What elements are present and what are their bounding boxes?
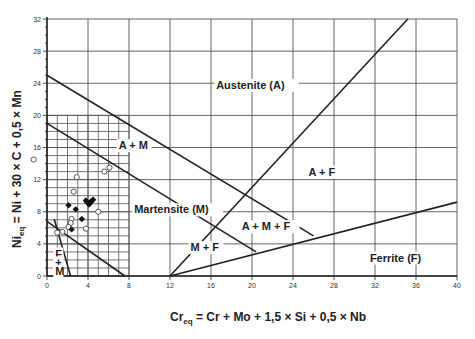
region-label: Austenite (A) — [216, 79, 285, 91]
open-circle-point — [107, 165, 112, 170]
region-label: M — [55, 265, 64, 277]
y-tick-label: 0 — [37, 273, 41, 280]
y-tick-label: 24 — [33, 80, 41, 87]
open-circle-point — [71, 189, 76, 194]
axes — [43, 17, 457, 280]
open-circle-point — [60, 229, 65, 234]
open-circle-point — [31, 157, 36, 162]
y-tick-label: 8 — [37, 208, 41, 215]
tick-labels: 0481216202428323640048121620242832 — [33, 16, 461, 290]
x-tick-label: 8 — [127, 282, 131, 289]
x-tick-label: 16 — [207, 282, 215, 289]
filled-diamond-point — [65, 202, 71, 208]
y-tick-label: 20 — [33, 112, 41, 119]
data-points — [31, 157, 112, 235]
open-circle-point — [96, 209, 101, 214]
x-tick-label: 4 — [86, 282, 90, 289]
x-tick-label: 40 — [453, 282, 461, 289]
x-tick-label: 36 — [412, 282, 420, 289]
x-axis-label: Creq = Cr + Mo + 1,5 × Si + 0,5 × Nb — [170, 310, 366, 326]
open-circle-point — [83, 226, 88, 231]
region-label: Martensite (M) — [134, 203, 209, 215]
y-tick-label: 4 — [37, 240, 41, 247]
open-circle-point — [55, 230, 60, 235]
region-labels: Austenite (A)A + MA + FMartensite (M)A +… — [53, 79, 440, 278]
x-tick-label: 0 — [45, 282, 49, 289]
y-axis-label: Nieq = Ni + 30 × C + 0,5 × Mn — [10, 90, 26, 248]
region-label: A + F — [308, 166, 335, 178]
region-label: Ferrite (F) — [370, 252, 422, 264]
x-tick-label: 20 — [248, 282, 256, 289]
filled-diamond-point — [79, 216, 85, 222]
region-label: A + M — [119, 139, 148, 151]
y-tick-label: 16 — [33, 144, 41, 151]
region-label: M + F — [191, 241, 220, 253]
x-tick-label: 28 — [330, 282, 338, 289]
x-tick-label: 24 — [289, 282, 297, 289]
x-tick-label: 32 — [371, 282, 379, 289]
open-circle-point — [102, 169, 107, 174]
x-tick-label: 12 — [166, 282, 174, 289]
y-tick-label: 28 — [33, 48, 41, 55]
y-tick-label: 32 — [33, 16, 41, 23]
y-tick-label: 12 — [33, 176, 41, 183]
schaeffler-diagram: Austenite (A)A + MA + FMartensite (M)A +… — [0, 0, 475, 339]
region-label: A + M + F — [242, 220, 291, 232]
open-circle-point — [74, 175, 79, 180]
